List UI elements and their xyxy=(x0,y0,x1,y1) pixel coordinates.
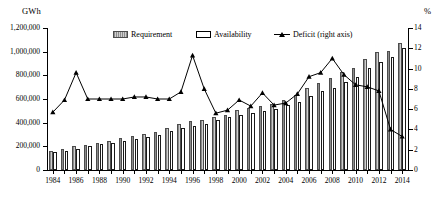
x-axis-tick xyxy=(111,171,112,174)
y-axis-left-tick xyxy=(43,170,47,171)
y2-axis-unit-label: % xyxy=(424,6,431,16)
bar-requirement xyxy=(387,51,390,170)
x-axis-tick xyxy=(64,171,65,174)
y-axis-left-tick-label: 400,000 xyxy=(0,118,40,127)
x-axis-tick-label: 2014 xyxy=(387,176,417,185)
bar-requirement xyxy=(282,100,285,170)
y-axis-right-tick xyxy=(409,89,413,90)
x-axis-tick xyxy=(297,171,298,174)
y-axis-right-tick xyxy=(409,69,413,70)
x-axis-tick xyxy=(169,171,170,174)
bar-availability xyxy=(158,135,161,171)
y-axis-right-tick-label: 8 xyxy=(414,84,434,93)
bar-requirement xyxy=(72,146,75,170)
bar-availability xyxy=(76,149,79,170)
x-axis-tick xyxy=(262,171,263,174)
bar-requirement xyxy=(200,120,203,170)
bar-availability xyxy=(111,143,114,170)
x-axis-tick xyxy=(286,171,287,174)
bar-requirement xyxy=(84,145,87,170)
x-axis-tick xyxy=(158,171,159,174)
x-axis-tick xyxy=(228,171,229,174)
x-axis-tick xyxy=(204,171,205,174)
bar-requirement xyxy=(142,134,145,170)
x-axis-tick xyxy=(134,171,135,174)
bar-availability xyxy=(333,88,336,170)
bar-requirement xyxy=(270,104,273,170)
x-axis-tick xyxy=(344,171,345,174)
x-axis-tick xyxy=(181,171,182,174)
bar-requirement xyxy=(177,124,180,170)
y-axis-right-tick-label: 0 xyxy=(414,165,434,174)
y-axis-right-tick-label: 2 xyxy=(414,145,434,154)
y-axis-right-tick xyxy=(409,129,413,130)
bar-requirement xyxy=(305,88,308,170)
bar-requirement xyxy=(363,59,366,170)
bar-requirement xyxy=(212,117,215,170)
bar-availability xyxy=(263,111,266,170)
bar-availability xyxy=(146,137,149,170)
bar-requirement xyxy=(107,141,110,170)
bar-availability xyxy=(379,62,382,170)
y-axis-right-tick-label: 6 xyxy=(414,104,434,113)
x-axis-tick xyxy=(239,171,240,174)
x-axis-tick xyxy=(146,171,147,174)
bar-requirement xyxy=(294,95,297,170)
bar-availability xyxy=(298,102,301,170)
bar-requirement xyxy=(259,106,262,170)
bar-availability xyxy=(193,126,196,170)
bar-availability xyxy=(356,77,359,170)
x-axis-tick xyxy=(274,171,275,174)
bar-availability xyxy=(239,115,242,170)
bar-requirement xyxy=(329,78,332,170)
x-axis-tick xyxy=(356,171,357,174)
x-axis-tick xyxy=(332,171,333,174)
bar-requirement xyxy=(119,138,122,170)
x-axis-tick xyxy=(53,171,54,174)
bar-requirement xyxy=(235,110,238,170)
y-axis-left-tick-label: 200,000 xyxy=(0,141,40,150)
y-axis-right-tick-label: 14 xyxy=(414,23,434,32)
x-axis-tick xyxy=(402,171,403,174)
x-axis-tick xyxy=(123,171,124,174)
bar-availability xyxy=(309,96,312,170)
bar-availability xyxy=(65,151,68,170)
bar-availability xyxy=(321,91,324,170)
y-axis-right-tick xyxy=(409,170,413,171)
x-axis-tick xyxy=(99,171,100,174)
x-axis-tick xyxy=(379,171,380,174)
bar-requirement xyxy=(224,115,227,170)
x-axis-tick xyxy=(76,171,77,174)
bar-requirement xyxy=(398,43,401,170)
bar-requirement xyxy=(189,121,192,170)
bar-availability xyxy=(123,141,126,170)
x-axis-tick xyxy=(251,171,252,174)
plot-area xyxy=(47,28,408,170)
y-axis-left-tick-label: 1,200,000 xyxy=(0,23,40,32)
bar-availability xyxy=(135,139,138,170)
bar-availability xyxy=(170,131,173,170)
y-axis-right-tick xyxy=(409,28,413,29)
bar-requirement xyxy=(61,149,64,170)
bar-availability xyxy=(344,82,347,170)
x-axis-tick xyxy=(367,171,368,174)
x-axis-tick xyxy=(391,171,392,174)
y-axis-right-tick-label: 10 xyxy=(414,64,434,73)
y-axis-left-tick-label: 1,000,000 xyxy=(0,47,40,56)
x-axis-tick xyxy=(216,171,217,174)
bar-availability xyxy=(228,117,231,170)
bar-requirement xyxy=(154,132,157,170)
bar-availability xyxy=(205,124,208,170)
bar-requirement xyxy=(96,143,99,170)
y-axis-left-tick-label: 800,000 xyxy=(0,70,40,79)
bar-requirement xyxy=(375,52,378,170)
x-axis-tick xyxy=(88,171,89,174)
bar-availability xyxy=(216,120,219,170)
bar-availability xyxy=(100,144,103,170)
bar-availability xyxy=(402,48,405,170)
y-axis-right-tick xyxy=(409,48,413,49)
y-axis-right-tick xyxy=(409,150,413,151)
x-axis-tick xyxy=(193,171,194,174)
bar-requirement xyxy=(49,151,52,170)
bar-availability xyxy=(286,105,289,170)
